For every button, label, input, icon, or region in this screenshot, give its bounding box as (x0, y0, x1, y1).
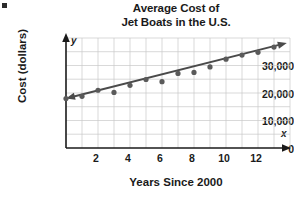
data-point (223, 57, 228, 62)
plot-canvas (0, 0, 294, 199)
data-point (127, 83, 132, 88)
data-point (95, 88, 100, 93)
trend-line-arrow-end (277, 42, 287, 49)
trend-line (71, 44, 282, 97)
data-point (111, 90, 116, 95)
data-point (239, 52, 244, 57)
data-point (143, 77, 148, 82)
data-point (63, 96, 68, 101)
data-point (159, 79, 164, 84)
data-point (271, 44, 276, 49)
data-point (191, 70, 196, 75)
data-point (79, 94, 84, 99)
data-point (255, 50, 260, 55)
data-point (207, 64, 212, 69)
data-point (175, 71, 180, 76)
figure-container: Average Cost of Jet Boats in the U.S. Co… (0, 0, 294, 199)
